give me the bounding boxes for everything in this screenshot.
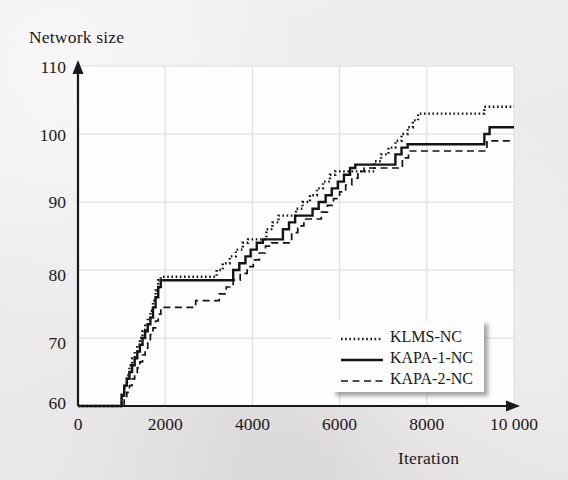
x-axis-title: Iteration — [398, 448, 459, 469]
y-tick-label-90: 90 — [22, 192, 66, 213]
x-tick-label-8000: 8000 — [392, 414, 462, 435]
x-tick-label-2000: 2000 — [130, 414, 200, 435]
x-tick-label-4000: 4000 — [217, 414, 287, 435]
y-tick-label-60: 60 — [22, 393, 66, 414]
y-tick-label-110: 110 — [22, 57, 66, 78]
legend-line-sample-solid — [340, 352, 384, 364]
legend-item-klms-nc: KLMS-NC — [340, 326, 462, 348]
y-axis-arrowhead — [73, 60, 84, 74]
y-tick-label-100: 100 — [22, 125, 66, 146]
figure-container: Network size Iteration 60708090100110 02… — [0, 0, 568, 480]
legend-label: KAPA-2-NC — [390, 371, 473, 387]
legend-label: KAPA-1-NC — [390, 350, 473, 366]
y-tick-label-80: 80 — [22, 265, 66, 286]
x-tick-label-0: 0 — [43, 414, 113, 435]
network-size-line-chart — [0, 0, 568, 480]
legend-item-kapa-2-nc: KAPA-2-NC — [340, 368, 473, 390]
legend-item-kapa-1-nc: KAPA-1-NC — [340, 347, 473, 369]
x-tick-label-10000: 10 000 — [479, 414, 549, 435]
y-axis-title: Network size — [29, 27, 124, 48]
legend-line-sample-dashed — [340, 373, 384, 385]
x-tick-label-6000: 6000 — [305, 414, 375, 435]
y-tick-label-70: 70 — [22, 333, 66, 354]
chart-legend: KLMS-NCKAPA-1-NCKAPA-2-NC — [332, 320, 484, 392]
x-axis-arrowhead — [506, 401, 520, 412]
legend-line-sample-dotted — [340, 331, 384, 343]
legend-label: KLMS-NC — [390, 329, 462, 345]
